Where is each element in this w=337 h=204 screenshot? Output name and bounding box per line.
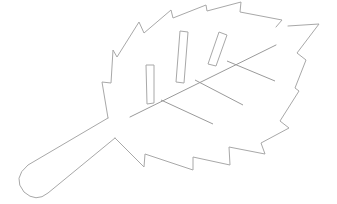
leaf-stem xyxy=(19,118,115,198)
highlight-bar xyxy=(146,65,154,104)
leaf-vein xyxy=(227,61,275,81)
leaf-icon xyxy=(0,0,337,204)
highlight-bar xyxy=(176,31,188,83)
highlight-bar xyxy=(208,32,227,66)
leaf-outline-lower xyxy=(115,24,319,170)
leaf-highlight-bars xyxy=(146,31,227,104)
leaf-veins xyxy=(161,61,275,124)
leaf-vein xyxy=(195,80,243,105)
leaf-midrib xyxy=(130,45,276,117)
leaf-illustration xyxy=(0,0,337,204)
leaf-outline-upper xyxy=(102,2,282,118)
leaf-vein xyxy=(161,100,213,124)
